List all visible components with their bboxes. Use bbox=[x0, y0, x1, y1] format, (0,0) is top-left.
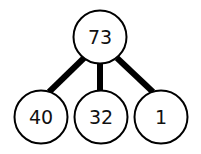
tree-node-root: 73 bbox=[74, 11, 127, 64]
node-label: 40 bbox=[29, 106, 53, 128]
node-label: 1 bbox=[155, 106, 167, 128]
tree-node-child-2: 32 bbox=[75, 91, 128, 144]
node-label: 32 bbox=[89, 106, 113, 128]
tree-diagram: 73 40 32 1 bbox=[0, 0, 201, 154]
edge-root-to-1 bbox=[117, 58, 153, 92]
tree-node-child-3: 1 bbox=[135, 91, 188, 144]
tree-node-child-1: 40 bbox=[15, 91, 68, 144]
edge-root-to-40 bbox=[49, 58, 84, 92]
node-label: 73 bbox=[88, 26, 112, 48]
